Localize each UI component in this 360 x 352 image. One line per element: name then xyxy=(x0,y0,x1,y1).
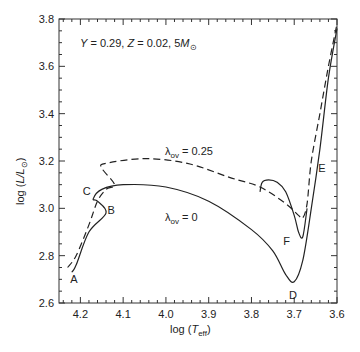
point-label-c: C xyxy=(83,185,91,197)
y-tick-label: 3.8 xyxy=(39,13,54,25)
chart-canvas: 4.24.14.03.93.83.73.62.62.83.03.23.43.63… xyxy=(0,0,360,352)
y-tick-label: 3.4 xyxy=(39,108,54,120)
x-tick-label: 3.9 xyxy=(201,308,216,320)
plot-frame xyxy=(59,19,337,303)
point-label-e: E xyxy=(318,162,325,174)
y-tick-label: 3.6 xyxy=(39,60,54,72)
y-axis-label: log (L/L⊙) xyxy=(14,158,29,205)
hr-diagram-figure: 4.24.14.03.93.83.73.62.62.83.03.23.43.63… xyxy=(0,0,360,352)
chart-annotation: Y = 0.29, Z = 0.02, 5M⊙ xyxy=(80,37,197,52)
y-tick-label: 3.0 xyxy=(39,202,54,214)
x-tick-label: 4.0 xyxy=(158,308,173,320)
point-labels: ABCDEF xyxy=(70,162,325,302)
legend-solid-label: λov = 0 xyxy=(165,211,198,226)
y-tick-label: 2.6 xyxy=(39,297,54,309)
x-tick-label: 3.7 xyxy=(287,308,302,320)
point-label-b: B xyxy=(108,204,115,216)
x-axis-label: log (Teff) xyxy=(170,323,211,338)
y-tick-label: 3.2 xyxy=(39,155,54,167)
x-tick-label: 3.6 xyxy=(329,308,344,320)
x-tick-label: 4.2 xyxy=(73,308,88,320)
y-tick-label: 2.8 xyxy=(39,250,54,262)
curve-overshoot-0 xyxy=(260,180,307,238)
x-tick-label: 4.1 xyxy=(116,308,131,320)
point-label-f: F xyxy=(283,235,290,247)
point-label-d: D xyxy=(289,289,297,301)
x-tick-label: 3.8 xyxy=(244,308,259,320)
legend-dashed-label: λov = 0.25 xyxy=(165,145,213,160)
point-label-a: A xyxy=(70,273,78,285)
